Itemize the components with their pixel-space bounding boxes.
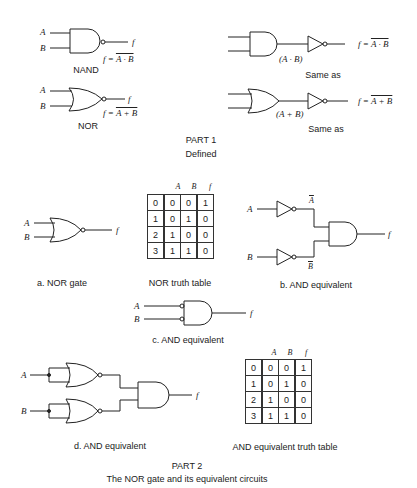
and-equivalent-c bbox=[144, 301, 246, 325]
nor-equation: f = A + B bbox=[103, 108, 137, 118]
a-output: f bbox=[116, 225, 119, 235]
nand-label: NAND bbox=[73, 65, 99, 75]
and-equivalent-truth-table: 0001 1010 2100 3110 bbox=[245, 359, 312, 424]
d-input-b: B bbox=[21, 406, 27, 416]
b-b-bar: B bbox=[308, 262, 313, 271]
table-row: 3110 bbox=[246, 408, 312, 424]
nand-input-a: A bbox=[40, 27, 46, 37]
nor-intermediate: (A + B) bbox=[276, 109, 303, 119]
table-row: 1010 bbox=[246, 376, 312, 392]
and-equivalent-d bbox=[30, 363, 192, 423]
table-row: 0001 bbox=[246, 360, 312, 376]
nor-same-label: Same as bbox=[308, 124, 344, 134]
c-input-a: A bbox=[134, 301, 140, 311]
nand-equation: f = A · B bbox=[103, 54, 134, 64]
table-row: 0001 bbox=[148, 195, 214, 211]
table-row: 3110 bbox=[148, 243, 214, 259]
table-row: 1010 bbox=[148, 211, 214, 227]
and-not-circuit bbox=[228, 32, 345, 56]
nand-same-label: Same as bbox=[305, 70, 341, 80]
c-output: f bbox=[250, 308, 253, 318]
nor-gate-a bbox=[34, 218, 112, 242]
c-caption: c. AND equivalent bbox=[152, 335, 224, 345]
b-a-bar: A bbox=[309, 196, 314, 205]
nor-table-caption: NOR truth table bbox=[149, 278, 212, 288]
table-row: 2100 bbox=[246, 392, 312, 408]
b-input-b: B bbox=[247, 252, 253, 262]
b-caption: b. AND equivalent bbox=[280, 280, 352, 290]
nor-input-b: B bbox=[40, 101, 46, 111]
part1-subtitle: Defined bbox=[185, 149, 216, 159]
nand-output: f bbox=[132, 37, 135, 47]
part1-title: PART 1 bbox=[186, 135, 217, 145]
d-output: f bbox=[196, 390, 199, 400]
part2-subtitle: The NOR gate and its equivalent circuits bbox=[106, 474, 267, 484]
nand-gate bbox=[50, 29, 128, 53]
b-output: f bbox=[388, 229, 391, 239]
nand-intermediate: (A · B) bbox=[279, 54, 303, 64]
and-table-header: ABf bbox=[266, 348, 314, 357]
nor-output: f bbox=[128, 94, 131, 104]
nor-label: NOR bbox=[78, 121, 98, 131]
table-row: 2100 bbox=[148, 227, 214, 243]
and-equivalent-b bbox=[257, 201, 385, 265]
part2-title: PART 2 bbox=[172, 461, 203, 471]
a-input-b: B bbox=[24, 232, 30, 242]
nor-input-a: A bbox=[40, 85, 46, 95]
c-input-b: B bbox=[134, 314, 140, 324]
nor-truth-table: 0001 1010 2100 3110 bbox=[147, 194, 214, 259]
d-input-a: A bbox=[21, 370, 27, 380]
b-input-a: A bbox=[247, 204, 253, 214]
nand-same-equation: f = A · B bbox=[358, 39, 389, 49]
a-input-a: A bbox=[24, 218, 30, 228]
a-caption: a. NOR gate bbox=[37, 278, 87, 288]
and-table-caption: AND equivalent truth table bbox=[232, 442, 337, 452]
nand-input-b: B bbox=[40, 43, 46, 53]
nor-table-header: ABf bbox=[170, 182, 218, 191]
nor-same-equation: f = A + B bbox=[358, 96, 392, 106]
d-caption: d. AND equivalent bbox=[74, 441, 146, 451]
